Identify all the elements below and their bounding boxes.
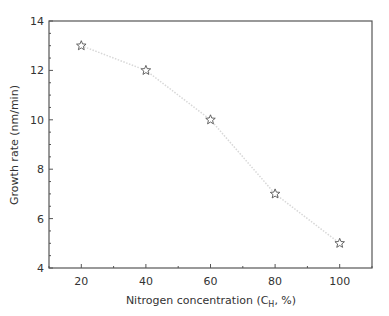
data-series: [77, 41, 345, 248]
y-tick-label: 6: [37, 213, 44, 226]
x-tick-label: 80: [268, 275, 282, 288]
y-axis-label: Growth rate (nm/min): [8, 85, 21, 205]
star-marker-icon: [77, 41, 87, 50]
y-tick-label: 14: [30, 15, 44, 28]
x-axis-label-main: Nitrogen concentration (C: [126, 294, 269, 307]
x-tick-label: 60: [204, 275, 218, 288]
x-tick-label: 40: [139, 275, 153, 288]
y-tick-label: 8: [37, 163, 44, 176]
x-axis-label-tail: , %): [274, 294, 296, 307]
chart: 468101214 20406080100 Growth rate (nm/mi…: [0, 0, 389, 316]
x-axis-label: Nitrogen concentration (CH, %): [126, 294, 296, 309]
y-tick-label: 4: [37, 262, 44, 275]
x-tick-label: 100: [329, 275, 350, 288]
y-tick-label: 10: [30, 114, 44, 127]
y-tick-label: 12: [30, 64, 44, 77]
star-marker-icon: [206, 115, 216, 124]
series-line: [81, 46, 339, 244]
star-marker-icon: [335, 238, 345, 247]
x-tick-label: 20: [74, 275, 88, 288]
